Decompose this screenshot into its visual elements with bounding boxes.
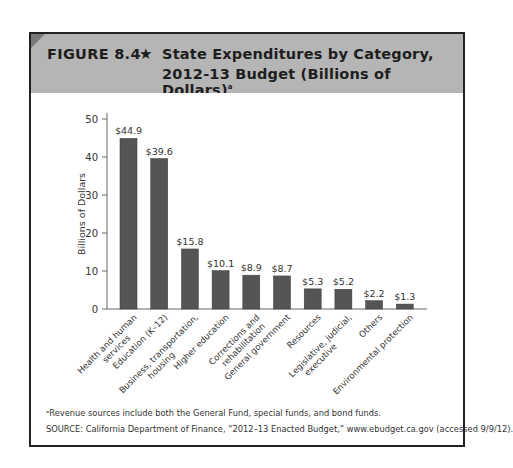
bar-chart: 01020304050Billions of Dollars$44.9Healt… bbox=[31, 34, 463, 445]
y-tick-label: 50 bbox=[85, 114, 98, 125]
y-tick-label: 30 bbox=[85, 190, 98, 201]
bar-value-label: $44.9 bbox=[115, 125, 142, 136]
figure-frame: FIGURE 8.4 ★ State Expenditures by Categ… bbox=[29, 32, 465, 447]
bar bbox=[304, 289, 321, 309]
bar bbox=[212, 271, 229, 309]
footnote-a: ᵃRevenue sources include both the Genera… bbox=[46, 408, 381, 418]
bar-value-label: $1.3 bbox=[394, 291, 415, 302]
y-tick-label: 10 bbox=[85, 266, 98, 277]
bar-value-label: $5.3 bbox=[302, 276, 323, 287]
y-axis-label: Billions of Dollars bbox=[76, 173, 87, 255]
bar-value-label: $2.2 bbox=[364, 288, 385, 299]
bar-value-label: $10.1 bbox=[207, 258, 234, 269]
svg-text:Health and human: Health and human bbox=[75, 312, 139, 376]
bar-value-label: $5.2 bbox=[333, 276, 354, 287]
bar bbox=[120, 138, 137, 309]
bar bbox=[151, 159, 168, 309]
bar-value-label: $8.7 bbox=[271, 263, 292, 274]
svg-text:Others: Others bbox=[357, 312, 385, 340]
bar bbox=[243, 275, 260, 309]
bar bbox=[274, 276, 291, 309]
y-tick-label: 40 bbox=[85, 152, 98, 163]
y-tick-label: 0 bbox=[92, 304, 98, 315]
x-tick-label: Others bbox=[357, 312, 385, 340]
bar-value-label: $39.6 bbox=[146, 146, 173, 157]
bar-value-label: $8.9 bbox=[241, 262, 262, 273]
bar-value-label: $15.8 bbox=[176, 236, 203, 247]
bar bbox=[335, 289, 352, 309]
svg-text:Legislative, judicial,: Legislative, judicial, bbox=[287, 312, 354, 379]
bar bbox=[181, 249, 198, 309]
bar bbox=[396, 304, 413, 309]
source-note: SOURCE: California Department of Finance… bbox=[46, 424, 513, 434]
y-tick-label: 20 bbox=[85, 228, 98, 239]
bar bbox=[366, 301, 383, 309]
